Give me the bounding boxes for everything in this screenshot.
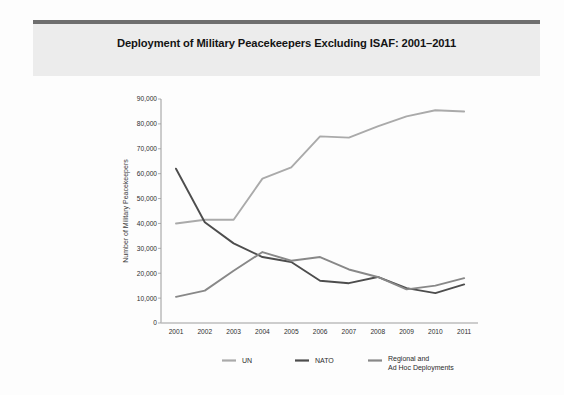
figure-canvas: Deployment of Military Peacekeepers Excl… — [0, 0, 564, 395]
x-tick-label: 2010 — [428, 328, 443, 335]
y-tick-label: 10,000 — [137, 295, 158, 302]
x-tick-label: 2004 — [255, 328, 270, 335]
series-line-un — [176, 110, 464, 223]
x-tick-label: 2008 — [370, 328, 385, 335]
y-tick-label: 0 — [153, 319, 157, 326]
title-top-rule — [33, 20, 540, 24]
chart-legend: UNNATORegional andAd Hoc Deployments — [222, 355, 454, 373]
plot-area: 010,00020,00030,00040,00050,00060,00070,… — [0, 85, 564, 395]
y-tick-label: 40,000 — [137, 220, 158, 227]
x-tick-label: 2002 — [197, 328, 212, 335]
x-tick-label: 2011 — [457, 328, 472, 335]
data-series-group — [176, 110, 464, 297]
x-tick-label: 2005 — [284, 328, 299, 335]
chart-title: Deployment of Military Peacekeepers Excl… — [33, 37, 540, 49]
y-tick-label: 50,000 — [137, 195, 158, 202]
line-chart-svg: 010,00020,00030,00040,00050,00060,00070,… — [0, 85, 564, 395]
y-tick-label: 60,000 — [137, 170, 158, 177]
x-tick-label: 2007 — [342, 328, 357, 335]
y-tick-label: 80,000 — [137, 120, 158, 127]
legend-label[interactable]: NATO — [315, 357, 334, 364]
y-tick-label: 90,000 — [137, 95, 158, 102]
legend-label[interactable]: Regional and — [388, 355, 429, 363]
y-axis-title: Number of Military Peacekeepers — [122, 159, 130, 263]
y-tick-label: 70,000 — [137, 145, 158, 152]
x-tick-label: 2009 — [399, 328, 414, 335]
y-tick-label: 30,000 — [137, 245, 158, 252]
y-tick-group: 010,00020,00030,00040,00050,00060,00070,… — [137, 95, 161, 326]
x-tick-group: 2001200220032004200520062007200820092010… — [169, 328, 472, 335]
x-tick-label: 2006 — [313, 328, 328, 335]
legend-label[interactable]: UN — [242, 357, 252, 364]
y-tick-label: 20,000 — [137, 270, 158, 277]
x-tick-label: 2003 — [226, 328, 241, 335]
legend-label-line2[interactable]: Ad Hoc Deployments — [388, 364, 454, 372]
x-tick-label: 2001 — [169, 328, 184, 335]
series-line-nato — [176, 169, 464, 293]
